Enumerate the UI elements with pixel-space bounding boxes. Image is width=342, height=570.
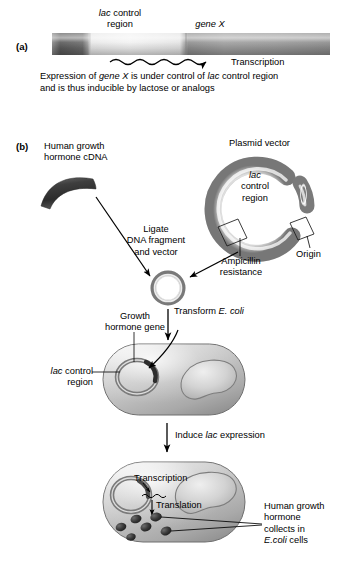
caption-gene-x: gene X — [99, 71, 128, 81]
ligate-instruction-label: Ligate DNA fragment and vector — [113, 224, 199, 258]
hgh-cdna-line2: hormone cDNA — [44, 152, 108, 162]
hgh-cdna-label: Human growth hormone cDNA — [44, 141, 108, 164]
hgh-cdna-fragment — [41, 178, 96, 209]
plasmid-region-text: region — [242, 193, 268, 203]
plasmid-lac-control-label: lac control region — [227, 170, 283, 204]
product-line3: collects in — [264, 524, 305, 534]
ligate-line2: DNA fragment — [127, 235, 185, 245]
panel-a-caption: Expression of gene X is under control of… — [40, 70, 308, 94]
induce-lac-italic: lac — [206, 430, 218, 440]
product-line1: Human growth — [264, 501, 324, 511]
lac-control-region-label-a: lac control region — [74, 8, 166, 31]
origin-leader — [307, 236, 310, 248]
product-line2: hormone — [264, 512, 301, 522]
plasmid-vector-label: Plasmid vector — [229, 138, 290, 149]
cell-lac-control-label: lac control region — [17, 366, 93, 389]
panel-a-label: (a) — [16, 41, 28, 52]
region-text-a: region — [107, 19, 133, 29]
transform-ecoli-italic: E. coli — [219, 306, 244, 316]
cell-lac-italic: lac — [51, 366, 63, 376]
ampicillin-line1: Ampicillin — [221, 256, 260, 266]
product-ecoli-italic: E.coli — [264, 535, 287, 545]
dna-bar-shading — [52, 33, 330, 55]
transcription-label-b: Transcription — [134, 473, 187, 484]
product-cells-word: cells — [287, 535, 308, 545]
transcription-squiggle — [110, 60, 206, 65]
induce-lac-expression-label: Induce lac expression — [175, 430, 265, 441]
plasmid-control-text: control — [241, 181, 269, 191]
translation-label-b: Translation — [156, 500, 202, 511]
hgh-cdna-line1: Human growth — [44, 141, 104, 151]
caption-post: control region — [219, 71, 278, 81]
ampicillin-line2: resistance — [220, 267, 262, 277]
growth-hormone-gene-label: Growth hormone gene — [79, 311, 191, 334]
transcription-label-a: Transcription — [231, 57, 284, 68]
lac-italic-a: lac — [99, 8, 111, 18]
recombinant-plasmid — [154, 274, 183, 303]
caption-lac: lac — [207, 71, 219, 81]
induce-post: expression — [217, 430, 265, 440]
cell-lac-region-word: region — [67, 377, 93, 387]
gene-x-label-a: gene X — [175, 19, 245, 30]
induce-pre: Induce — [175, 430, 206, 440]
figure-root: (a) lac control region gene X Transcript… — [0, 0, 342, 570]
plasmid-lac-italic: lac — [249, 170, 261, 180]
growth-gene-line1: Growth — [120, 311, 150, 321]
caption-pre: Expression of — [40, 71, 99, 81]
panel-b-label: (b) — [16, 141, 28, 152]
ecoli-cell-transformed — [103, 344, 245, 415]
ligate-line1: Ligate — [143, 224, 168, 234]
panel-a-dna-construct — [52, 33, 330, 65]
hgh-product-label: Human growth hormone collects in E.coli … — [264, 501, 324, 547]
caption-line2: and is thus inducible by lactose or anal… — [40, 83, 215, 93]
origin-label: Origin — [296, 249, 321, 260]
ampicillin-resistance-label: Ampicillin resistance — [204, 256, 278, 279]
cell-lac-control-word: control — [63, 366, 94, 376]
ligate-line3: and vector — [134, 247, 177, 257]
control-text-a: control — [113, 8, 141, 18]
caption-mid: is under control of — [128, 71, 207, 81]
growth-gene-line2: hormone gene — [105, 322, 165, 332]
